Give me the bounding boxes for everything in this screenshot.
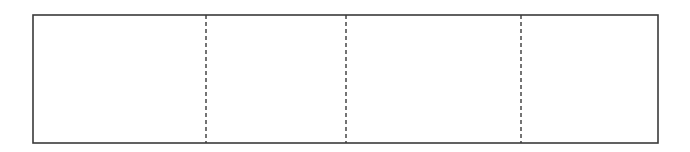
segment-2 [206,15,346,143]
segment-3 [346,15,521,143]
segment-1 [33,15,206,143]
diagram-canvas [0,0,690,152]
segmented-rectangle-diagram [0,0,690,152]
segment-4 [521,15,658,143]
